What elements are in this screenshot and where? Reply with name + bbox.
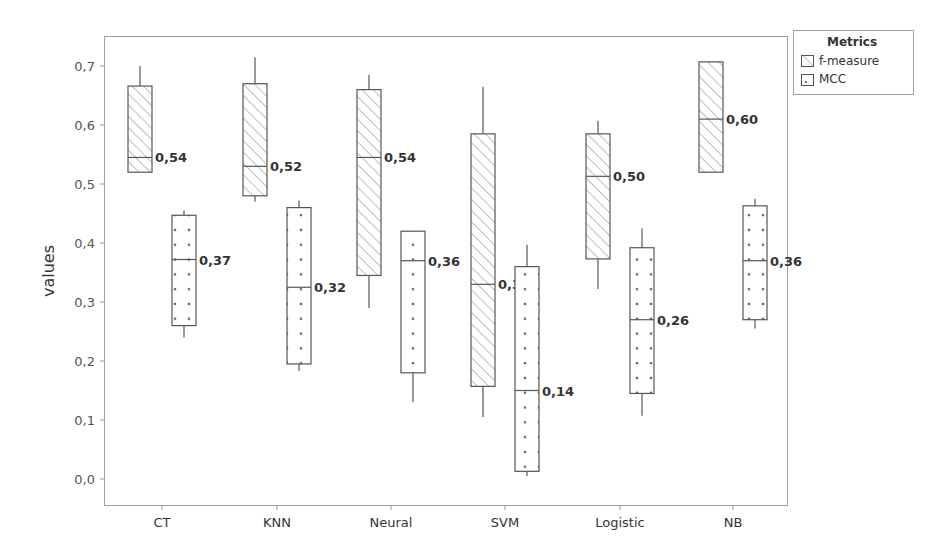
legend-title: Metrics [827, 35, 877, 49]
box-f-measure-knn: 0,52 [243, 57, 302, 202]
y-tick-label: 0,2 [74, 354, 95, 369]
median-label: 0,54 [384, 150, 416, 165]
y-tick-label: 0,6 [74, 118, 95, 133]
y-tick-label: 0,7 [74, 59, 95, 74]
median-label: 0,52 [270, 159, 302, 174]
y-tick-label: 0,0 [74, 472, 95, 487]
box-f-measure-ct: 0,54 [128, 66, 187, 172]
median-label: 0,60 [726, 112, 758, 127]
y-tick-label: 0,1 [74, 413, 95, 428]
x-category-label: KNN [263, 515, 291, 530]
hatched-swatch-icon [802, 56, 814, 67]
legend: Metrics f-measure MCC [794, 31, 914, 95]
box-mcc-svm: 0,14 [515, 245, 574, 476]
legend-label: MCC [819, 72, 846, 86]
x-axis: CTKNNNeuralSVMLogisticNB [153, 505, 742, 530]
y-tick-label: 0,4 [74, 236, 95, 251]
box-mcc-nb: 0,36 [743, 199, 802, 329]
box-mcc-logistic: 0,26 [630, 228, 689, 416]
box-mcc-ct: 0,37 [172, 211, 231, 338]
x-category-label: SVM [491, 515, 519, 530]
y-axis: 0,00,10,20,30,40,50,60,7 [74, 59, 105, 487]
median-label: 0,36 [428, 254, 460, 269]
legend-item-mcc: MCC [802, 72, 847, 86]
y-axis-title: values [39, 245, 58, 297]
x-category-label: Logistic [595, 515, 644, 530]
box-mcc-knn: 0,32 [287, 201, 346, 372]
median-label: 0,37 [199, 253, 231, 268]
legend-item-f-measure: f-measure [802, 54, 880, 68]
plot-frame [105, 37, 788, 506]
box-f-measure-nb: 0,60 [699, 62, 758, 172]
median-label: 0,36 [770, 254, 802, 269]
median-label: 0,14 [542, 384, 574, 399]
x-category-label: NB [724, 515, 743, 530]
legend-label: f-measure [819, 54, 879, 68]
dotted-swatch-dot [805, 81, 807, 83]
median-label: 0,26 [657, 313, 689, 328]
boxplot-chart: 0,00,10,20,30,40,50,60,7 CTKNNNeuralSVML… [0, 0, 952, 557]
y-tick-label: 0,5 [74, 177, 95, 192]
y-tick-label: 0,3 [74, 295, 95, 310]
box-series: 0,540,520,540,320,500,600,370,320,360,14… [128, 57, 802, 476]
box-mcc-neural: 0,36 [401, 231, 460, 402]
x-category-label: CT [153, 515, 170, 530]
median-label: 0,54 [155, 150, 187, 165]
x-category-label: Neural [370, 515, 413, 530]
median-label: 0,50 [613, 169, 645, 184]
median-label: 0,32 [314, 280, 346, 295]
dotted-swatch-icon [802, 75, 814, 86]
